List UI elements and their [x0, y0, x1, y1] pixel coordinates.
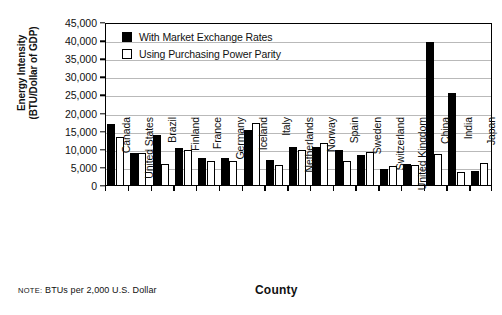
x-axis-title: County [255, 283, 298, 297]
x-axis-category-label: Sweden [371, 117, 383, 191]
y-axis-tick-label: 45,000 [65, 17, 97, 29]
y-axis-tick-label: 0 [91, 180, 97, 192]
x-axis-category-label: India [462, 117, 474, 191]
figure-note: Note: BTUs per 2,000 U.S. Dollar [18, 285, 157, 295]
x-axis-category-label: United Kingdom [416, 117, 428, 191]
x-axis-category-label: Iceland [257, 117, 269, 191]
figure-note-label: Note: [18, 286, 42, 295]
y-axis-tick-label: 30,000 [65, 71, 97, 83]
x-axis-category-label: Canada [120, 117, 132, 191]
x-axis-category-label: Brazil [166, 117, 178, 191]
y-axis-tick-labels: 45,00040,00035,00030,00025,00020,00015,0… [40, 23, 105, 186]
y-axis-tick-label: 35,000 [65, 53, 97, 65]
figure-note-text: BTUs per 2,000 U.S. Dollar [45, 285, 157, 295]
x-axis-category-label: Japan [485, 117, 497, 191]
y-axis-tick-label: 15,000 [65, 126, 97, 138]
x-axis-category-label: Finland [189, 117, 201, 191]
legend-swatch-filled-icon [122, 32, 132, 42]
legend-label-ppp: Using Purchasing Power Parity [139, 48, 281, 60]
y-axis-tick-label: 10,000 [65, 144, 97, 156]
y-axis-tick-label: 25,000 [65, 89, 97, 101]
x-axis-category-label: Spain [348, 117, 360, 191]
y-axis-tick-label: 20,000 [65, 108, 97, 120]
x-axis-category-label: China [439, 117, 451, 191]
energy-intensity-bar-chart: Energy Intensity (BTU/Dollar of GDP) 45,… [0, 0, 502, 315]
x-axis-category-label: France [211, 117, 223, 191]
legend-swatch-hollow-icon [122, 49, 132, 59]
x-axis-category-label: Netherlands [303, 117, 315, 191]
x-axis-category-label: Switzerland [394, 117, 406, 191]
legend-item-market: With Market Exchange Rates [122, 29, 337, 44]
y-axis-tick-label: 5,000 [71, 162, 97, 174]
x-axis-category-label: United States [143, 117, 155, 191]
legend-item-ppp: Using Purchasing Power Parity [122, 46, 337, 61]
y-axis-title-line-1: Energy Intensity [16, 0, 28, 153]
y-axis-title-line-2: (BTU/Dollar of GDP) [28, 0, 40, 153]
y-axis-tick-label: 40,000 [65, 35, 97, 47]
x-axis-category-label: Germany [234, 117, 246, 191]
bar-market-exchange-rates[interactable] [107, 124, 115, 186]
x-axis-category-label: Norway [325, 117, 337, 191]
legend: With Market Exchange Rates Using Purchas… [122, 29, 337, 63]
legend-label-market: With Market Exchange Rates [139, 31, 272, 43]
x-axis-category-label: Italy [280, 117, 292, 191]
x-axis-category-labels: CanadaUnited StatesBrazilFinlandFranceGe… [105, 191, 492, 266]
